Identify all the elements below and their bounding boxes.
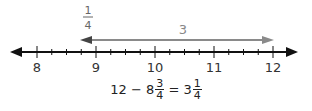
equation-equals: = (168, 82, 179, 97)
jump-arrow-right-head-icon (262, 36, 274, 44)
equation-subtrahend-whole: 8 (146, 82, 154, 97)
fraction-denominator: 4 (194, 90, 201, 101)
right-arrow-icon (286, 47, 298, 57)
tick-label: 10 (147, 60, 164, 75)
equation: 12 − 834 = 314 (0, 78, 312, 101)
left-arrow-icon (10, 47, 22, 57)
equation-subtrahend-fraction: 34 (155, 78, 164, 101)
fraction-denominator: 4 (156, 90, 163, 101)
tick-label: 11 (206, 60, 223, 75)
equation-minuend: 12 (110, 82, 127, 97)
jump-label-three: 3 (179, 22, 187, 37)
tick-label: 9 (92, 60, 100, 75)
tick-label: 8 (33, 60, 41, 75)
equation-result-fraction: 14 (193, 78, 202, 101)
jump-label-quarter-den: 4 (85, 19, 92, 32)
equation-result-whole: 3 (183, 82, 191, 97)
tick-label: 12 (265, 60, 282, 75)
jump-arrow-left-head-icon (80, 36, 92, 44)
equation-minus: − (131, 82, 142, 97)
tick-labels: 89101112 (33, 60, 281, 75)
jump-label-quarter-num: 1 (85, 4, 92, 17)
